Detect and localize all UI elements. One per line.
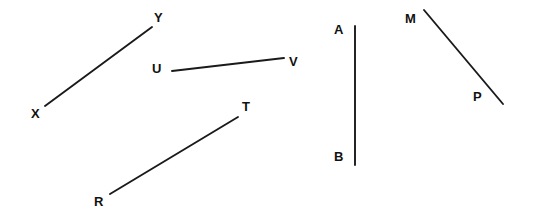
point-label-v: V bbox=[289, 55, 298, 68]
point-label-a: A bbox=[334, 23, 343, 36]
segment-xy bbox=[45, 27, 152, 106]
point-label-b: B bbox=[334, 150, 343, 163]
segment-mp bbox=[424, 10, 503, 104]
segment-rt bbox=[110, 117, 238, 194]
point-label-u: U bbox=[152, 62, 161, 75]
geometry-diagram: XYUVRTABMP bbox=[0, 0, 533, 223]
point-label-m: M bbox=[405, 12, 416, 25]
point-label-y: Y bbox=[154, 11, 163, 24]
point-label-p: P bbox=[473, 90, 482, 103]
point-label-r: R bbox=[94, 195, 103, 208]
segments-group bbox=[45, 10, 503, 194]
point-label-x: X bbox=[31, 107, 40, 120]
segments-canvas bbox=[0, 0, 533, 223]
segment-uv bbox=[172, 58, 284, 71]
point-label-t: T bbox=[242, 100, 250, 113]
